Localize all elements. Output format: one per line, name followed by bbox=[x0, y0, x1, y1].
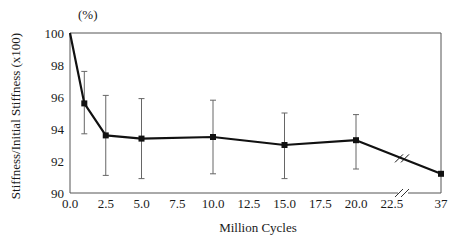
data-line bbox=[70, 33, 441, 174]
data-point-marker bbox=[438, 171, 444, 177]
y-axis-title: Stiffness/Initial Stiffness (x100) bbox=[8, 33, 23, 199]
data-point-marker bbox=[139, 136, 145, 142]
x-tick-label: 7.5 bbox=[169, 196, 185, 211]
y-unit-label: (%) bbox=[78, 7, 98, 22]
y-tick-label: 98 bbox=[51, 58, 64, 73]
x-tick-label: 0.0 bbox=[62, 196, 78, 211]
y-tick-label: 100 bbox=[45, 26, 65, 41]
plot-frame bbox=[70, 33, 441, 193]
x-tick-label: 37 bbox=[435, 196, 449, 211]
data-series bbox=[70, 33, 444, 177]
y-tick-label: 94 bbox=[51, 122, 65, 137]
x-tick-label: 12.5 bbox=[237, 196, 260, 211]
y-axis-ticks: 9092949698100 bbox=[45, 26, 65, 201]
x-tick-label: 17.5 bbox=[309, 196, 332, 211]
x-tick-label: 5.0 bbox=[133, 196, 149, 211]
stiffness-chart: 9092949698100 0.02.55.07.510.012.515.017… bbox=[0, 0, 465, 245]
x-tick-label: 22.5 bbox=[380, 196, 403, 211]
y-tick-label: 96 bbox=[51, 90, 65, 105]
x-axis-title: Million Cycles bbox=[219, 220, 297, 235]
data-point-marker bbox=[81, 100, 87, 106]
data-point-marker bbox=[353, 137, 359, 143]
data-point-marker bbox=[210, 134, 216, 140]
error-bars bbox=[81, 71, 359, 178]
data-point-marker bbox=[103, 132, 109, 138]
y-tick-label: 92 bbox=[51, 154, 64, 169]
x-tick-label: 10.0 bbox=[202, 196, 225, 211]
x-tick-label: 15.0 bbox=[273, 196, 296, 211]
x-tick-label: 20.0 bbox=[345, 196, 368, 211]
data-point-marker bbox=[282, 142, 288, 148]
x-tick-label: 2.5 bbox=[98, 196, 114, 211]
x-axis-ticks: 0.02.55.07.510.012.515.017.520.022.537 bbox=[62, 196, 448, 211]
